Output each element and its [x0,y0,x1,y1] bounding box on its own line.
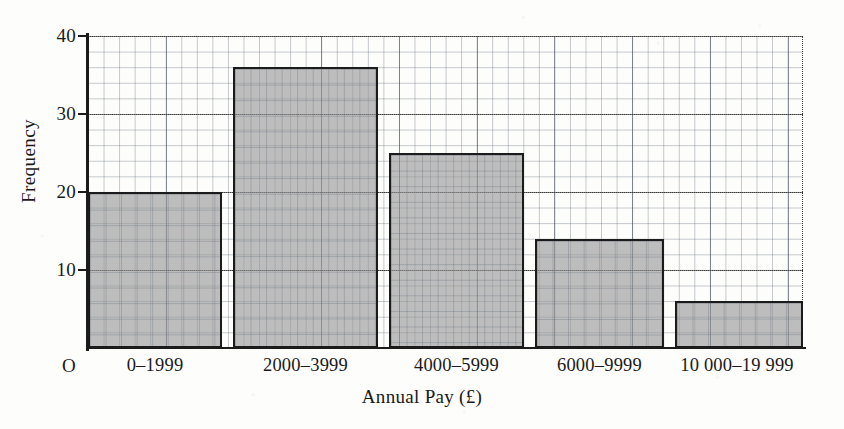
bar-6000-9999 [535,239,664,348]
y-tick-mark-10 [78,269,87,271]
gridline-30 [88,114,803,115]
x-tick-label-2000-3999: 2000–3999 [233,355,378,376]
bar-10000-19999 [675,301,803,348]
x-tick-label-10000-19999: 10 000–19 999 [671,355,803,376]
x-tick-label-0-1999: 0–1999 [88,355,222,376]
y-axis-title: Frequency [18,56,40,266]
bar-2000-3999 [233,67,378,348]
x-axis-line [86,347,806,350]
histogram-figure: 40 30 20 10 Frequency O Annual Pay (£) 0… [0,0,844,429]
plot-area [88,36,803,348]
x-tick-label-4000-5999: 4000–5999 [389,355,524,376]
x-tick-label-6000-9999: 6000–9999 [535,355,664,376]
y-tick-mark-20 [78,191,87,193]
y-tick-mark-30 [78,113,87,115]
origin-label: O [62,355,76,377]
bar-4000-5999 [389,153,524,348]
plot-top-border [88,36,803,37]
y-tick-mark-40 [78,35,87,37]
y-tick-label-40: 40 [30,26,76,45]
x-axis-title: Annual Pay (£) [0,386,844,408]
bar-0-1999 [88,192,222,348]
